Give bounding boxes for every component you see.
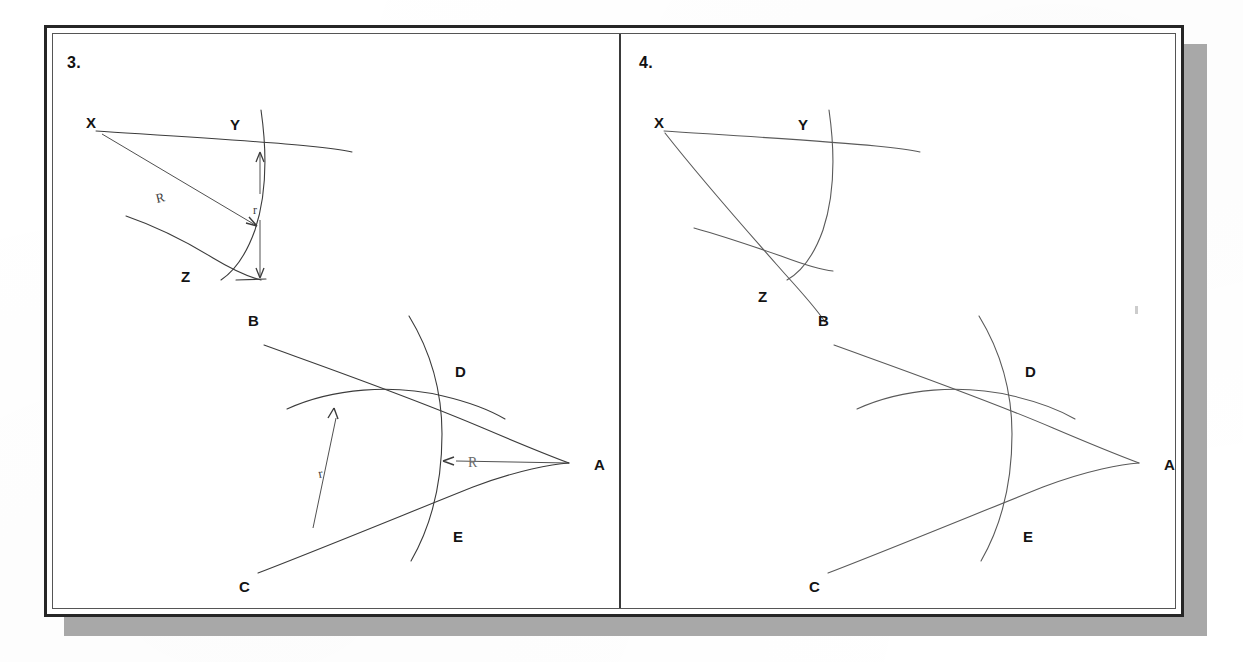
- figure-xyz-bisector-svg: X Y Z: [625, 34, 1175, 324]
- panel-question-3: 3.: [53, 34, 619, 608]
- annotation-r-double-arrow: [256, 152, 264, 278]
- point-label-y: Y: [230, 116, 240, 133]
- arc-radius-R-from-X: [787, 110, 833, 280]
- panel-divider: [619, 34, 621, 608]
- annotation-label-R: R: [154, 189, 166, 206]
- annotation-label-r: r: [253, 203, 257, 217]
- arrowhead-R-bac: [443, 457, 454, 465]
- point-label-c: C: [809, 578, 820, 595]
- point-label-z: Z: [181, 268, 190, 285]
- ray-b-to-a: [264, 345, 569, 463]
- sheet-frame: 3.: [44, 25, 1184, 617]
- ray-x-to-y: [96, 131, 352, 152]
- point-label-d: D: [1025, 363, 1036, 380]
- annotation-label-R-bac: R: [468, 455, 478, 470]
- annotation-label-r-bac: r: [317, 465, 325, 481]
- ray-b-to-a: [834, 345, 1139, 463]
- bisector-line-through-z: [665, 133, 825, 322]
- point-label-y: Y: [798, 116, 808, 133]
- point-label-b: B: [818, 312, 829, 329]
- scan-artifact-speck: [1135, 306, 1138, 314]
- point-label-d: D: [455, 363, 466, 380]
- ray-x-to-y: [664, 131, 920, 152]
- point-label-e: E: [453, 528, 463, 545]
- figure-bac-plain-svg: B A C D E: [625, 296, 1175, 608]
- arc-radius-r: [126, 216, 261, 280]
- figure-xyz-annotated-svg: R r X Y Z: [53, 34, 619, 324]
- point-label-b: B: [248, 312, 259, 329]
- arrowhead-r-bac: [328, 408, 338, 419]
- point-label-e: E: [1023, 528, 1033, 545]
- annotation-R-leader: [102, 134, 257, 226]
- arc-radius-R-from-A: [979, 316, 1012, 561]
- point-label-x: X: [654, 114, 664, 131]
- annotation-R-leader-bac: [443, 457, 569, 465]
- leader-line-R: [102, 134, 257, 226]
- point-label-x: X: [86, 114, 96, 131]
- leader-line-r-bac: [313, 418, 336, 528]
- point-label-a: A: [1164, 456, 1175, 473]
- arc-radius-R-from-A: [409, 316, 442, 561]
- point-label-a: A: [594, 456, 605, 473]
- worksheet-page: 3.: [0, 0, 1243, 662]
- arrowhead-R: [246, 217, 257, 226]
- figure-bac-annotated-svg: R r B A C D E: [53, 296, 619, 608]
- panel-question-4: 4. X Y Z: [625, 34, 1175, 608]
- point-label-c: C: [239, 578, 250, 595]
- arc-radius-R-from-X: [221, 110, 265, 280]
- panel-4-figure-bottom: B A C D E: [625, 296, 1175, 608]
- panel-3-figure-bottom: R r B A C D E: [53, 296, 619, 608]
